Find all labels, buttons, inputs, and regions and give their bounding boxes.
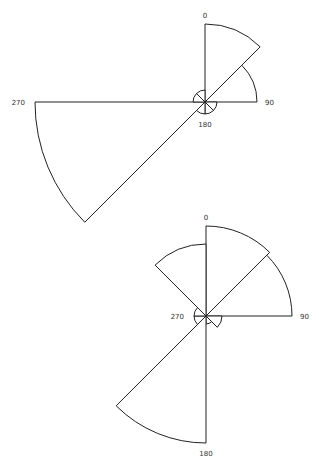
polar-chart-0: 090180270	[12, 12, 274, 222]
angle-label: 0	[204, 214, 208, 222]
polar-charts: 090180270090180270	[0, 0, 319, 462]
angle-label: 0	[203, 12, 207, 20]
angle-label: 90	[265, 99, 274, 107]
chart-area: 090180270090180270	[0, 0, 319, 462]
angle-label: 180	[199, 450, 212, 458]
sector	[35, 102, 205, 222]
angle-label: 270	[12, 99, 25, 107]
angle-label: 90	[300, 313, 309, 321]
angle-label: 180	[198, 121, 211, 129]
angle-label: 270	[171, 313, 184, 321]
sector	[155, 244, 206, 316]
sector	[116, 316, 206, 443]
polar-chart-1: 090180270	[116, 214, 309, 458]
